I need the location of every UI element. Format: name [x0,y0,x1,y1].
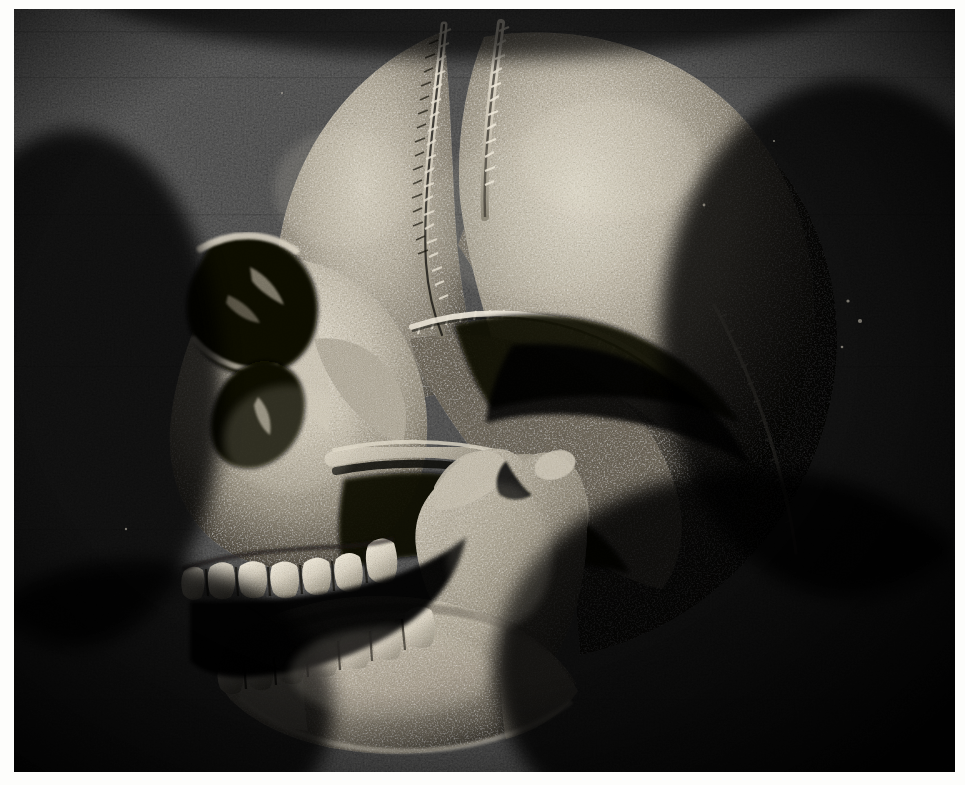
skull-lateral-illustration [14,9,955,772]
printed-photo-plate [14,9,955,772]
photograph-page: human skull, left lateral view [0,0,965,785]
vignette [14,9,955,772]
